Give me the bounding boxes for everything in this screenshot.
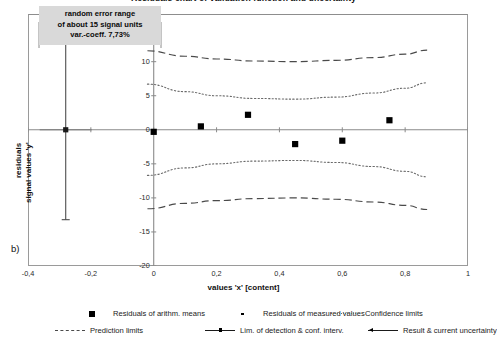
y-tick-label: -20 (128, 261, 150, 270)
y-axis-title-group: residuals signal values 'y' (0, 0, 28, 266)
annotation-callout: random error range of about 15 signal un… (39, 6, 161, 45)
annotation-line-1: random error range (41, 9, 159, 20)
legend-item[interactable]: Prediction limits (55, 322, 143, 339)
chart-legend: Residuals of arithm. meansResiduals of m… (0, 303, 487, 342)
confidence-limit-curve (147, 83, 427, 99)
legend-key-dot-icon (228, 308, 258, 320)
prediction-limit-curve (147, 50, 427, 62)
legend-item-label: Prediction limits (90, 325, 143, 337)
x-tick-label: -0,2 (76, 269, 106, 278)
legend-key-dashed-icon (55, 325, 85, 337)
legend-key-solid-marker-icon (205, 325, 235, 337)
residual-mean-marker (292, 141, 298, 147)
residual-mean-marker (339, 138, 345, 144)
legend-row: Residuals of arithm. meansResiduals of m… (0, 305, 487, 322)
panel-label: b) (11, 243, 19, 254)
y-axis-title-signal-values: signal values 'y' (24, 142, 33, 203)
legend-item[interactable]: Residuals of arithm. means (78, 305, 205, 322)
legend-item[interactable]: Lim. of detection & conf. interv. (205, 322, 344, 339)
x-tick-label: 1 (453, 269, 483, 278)
y-tick-label: -15 (128, 227, 150, 236)
x-tick-label: -0,4 (13, 269, 43, 278)
prediction-limit-curve (147, 198, 427, 210)
legend-item-label: Residuals of arithm. means (113, 308, 205, 320)
chart-title: Residuals chart of validation function a… (0, 0, 487, 3)
error-bar-center-marker (63, 127, 68, 132)
confidence-limit-curve (147, 160, 427, 176)
residual-mean-marker (151, 129, 157, 135)
residual-mean-marker (245, 112, 251, 118)
residual-mean-marker (198, 123, 204, 129)
legend-row: Prediction limitsLim. of detection & con… (0, 322, 487, 339)
residual-mean-marker (386, 117, 392, 123)
legend-item-label: Lim. of detection & conf. interv. (240, 325, 344, 337)
legend-item[interactable]: Confidence limits (330, 305, 423, 322)
x-tick-label: 0,4 (264, 269, 294, 278)
y-tick-label: 10 (128, 57, 150, 66)
y-tick-label: -5 (128, 159, 150, 168)
x-tick-label: 0 (139, 269, 169, 278)
y-tick-label: 0 (128, 125, 150, 134)
y-tick-label: 5 (128, 91, 150, 100)
x-tick-label: 0,2 (202, 269, 232, 278)
annotation-line-3: var.-coeff. 7,73% (41, 30, 159, 41)
legend-key-square-icon (78, 308, 108, 320)
plot-canvas (28, 14, 468, 266)
x-tick-label: 0,8 (390, 269, 420, 278)
legend-item-label: Confidence limits (365, 308, 423, 320)
y-tick-label: -10 (128, 193, 150, 202)
legend-key-dotted-icon (330, 308, 360, 320)
legend-key-solid-arrow-icon (368, 325, 398, 337)
x-tick-label: 0,6 (327, 269, 357, 278)
y-axis-title-residuals: residuals (14, 143, 23, 178)
annotation-line-2: of about 15 signal units (41, 20, 159, 31)
legend-item-label: Result & current uncertainty (403, 325, 497, 337)
x-axis-title: values 'x' [content] (0, 283, 487, 292)
legend-item[interactable]: Result & current uncertainty (368, 322, 497, 339)
